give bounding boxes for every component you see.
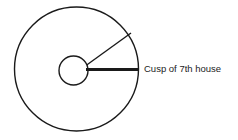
diagram-canvas: Cusp of 7th house — [0, 0, 238, 140]
cusp-label: Cusp of 7th house — [144, 63, 221, 74]
inner-circle — [59, 56, 88, 85]
astrology-chart-diagram: Cusp of 7th house — [0, 0, 238, 140]
